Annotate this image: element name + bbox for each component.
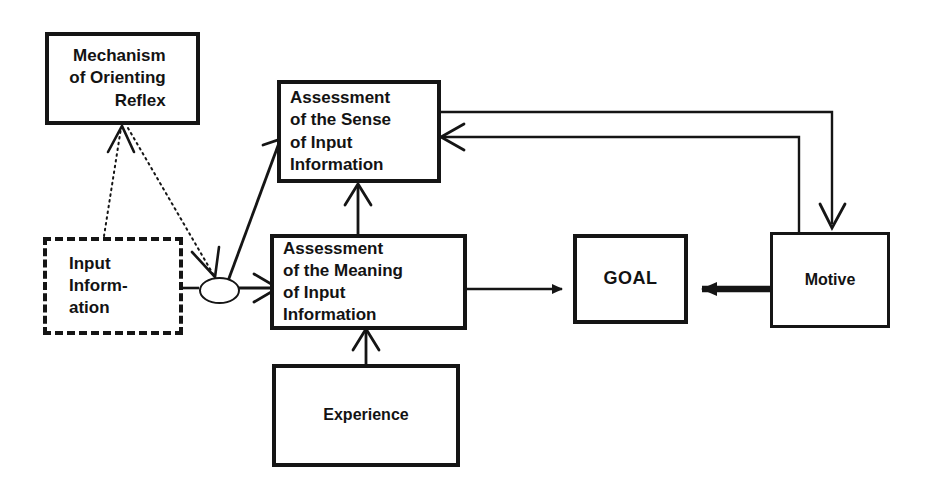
node-mechanism-label: Mechanism of Orienting Reflex	[69, 45, 175, 111]
node-mechanism-of-orienting-reflex[interactable]: Mechanism of Orienting Reflex	[45, 32, 200, 125]
node-input-information-label: Input Inform- ation	[47, 253, 128, 319]
edge-experience-to-meaning	[353, 329, 379, 364]
node-motive[interactable]: Motive	[770, 232, 890, 328]
node-assessment-of-the-meaning-of-input-information[interactable]: Assessment of the Meaning of Input Infor…	[270, 234, 467, 330]
node-junction-ellipse[interactable]	[199, 277, 240, 304]
node-experience-label: Experience	[323, 405, 408, 426]
node-goal-label: GOAL	[604, 267, 658, 290]
node-assessment-meaning-label: Assessment of the Meaning of Input Infor…	[283, 238, 403, 326]
node-experience[interactable]: Experience	[272, 364, 460, 467]
diagram-canvas: Mechanism of Orienting Reflex Assessment…	[0, 0, 933, 494]
node-goal[interactable]: GOAL	[573, 234, 688, 324]
node-input-information[interactable]: Input Inform- ation	[43, 237, 183, 335]
edge-motive-to-sense	[441, 124, 799, 232]
edge-sense-to-motive	[441, 112, 845, 228]
node-assessment-sense-label: Assessment of the Sense of Input Informa…	[290, 87, 391, 175]
edge-input-to-mechanism	[104, 126, 134, 236]
node-assessment-of-the-sense-of-input-information[interactable]: Assessment of the Sense of Input Informa…	[277, 80, 441, 183]
edge-meaning-to-sense	[345, 184, 371, 234]
node-motive-label: Motive	[805, 270, 856, 291]
